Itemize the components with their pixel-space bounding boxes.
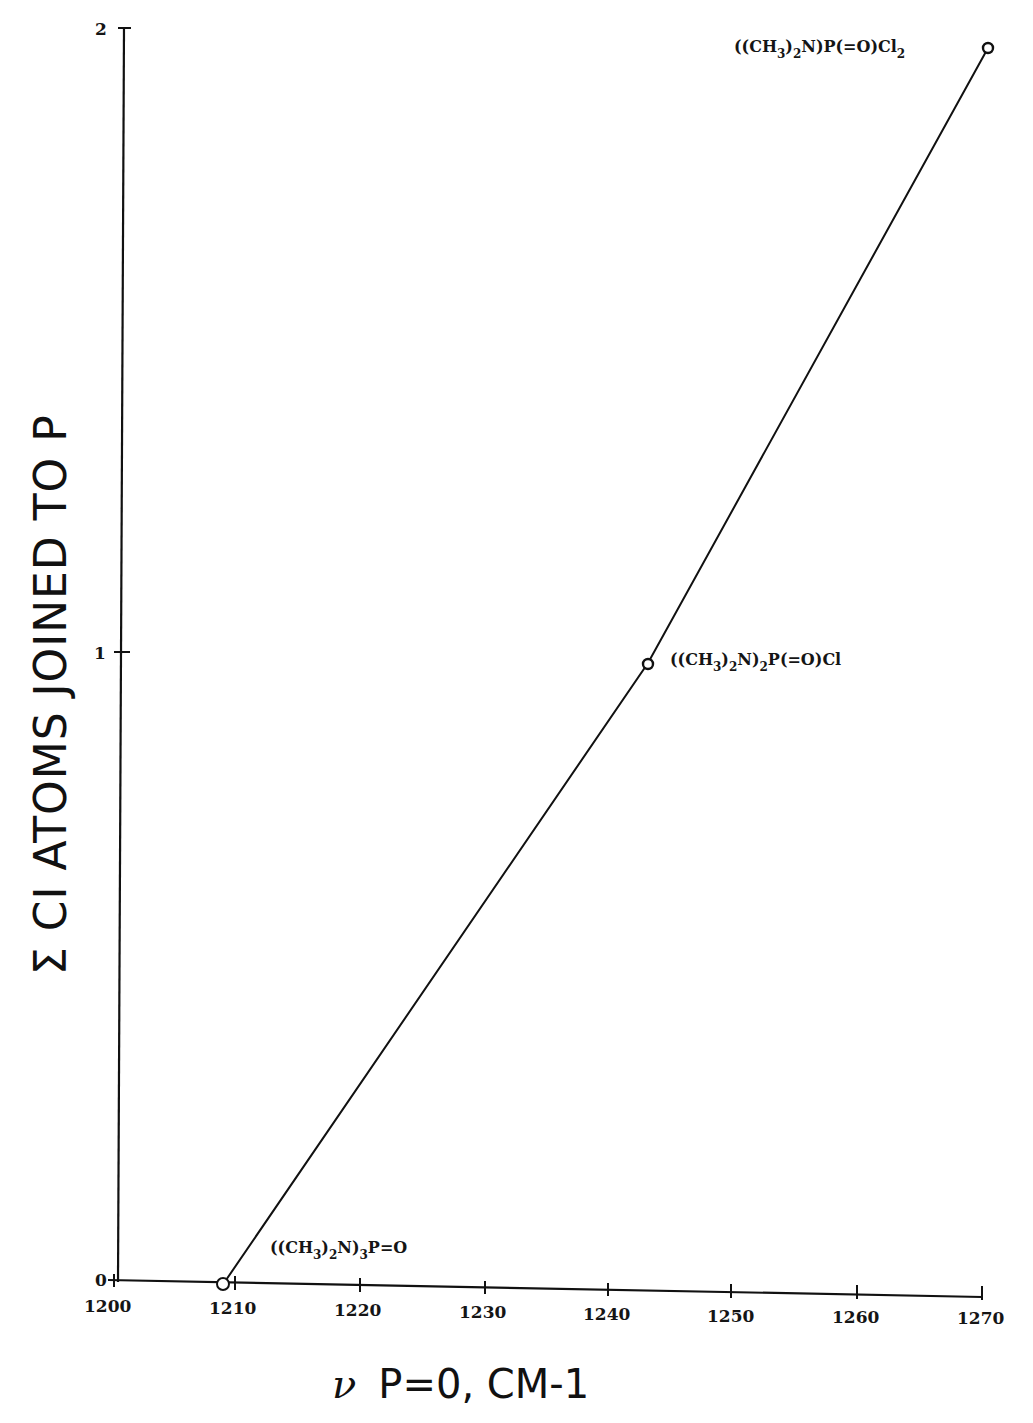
point-label-1: ((CH3)2N)2P(=O)Cl <box>670 650 841 674</box>
y-tick-label-2: 2 <box>95 19 107 39</box>
y-tick-label-0: 0 <box>95 1270 107 1290</box>
x-tick-label-1250: 1250 <box>707 1306 754 1326</box>
x-tick-label-1270: 1270 <box>957 1308 1004 1328</box>
y-tick-label-1: 1 <box>94 643 106 663</box>
chart-canvas: 2 1 0 1200 1210 1220 1230 1240 1250 1260… <box>0 0 1033 1423</box>
x-axis-line <box>108 1280 982 1297</box>
x-tick-label-1230: 1230 <box>459 1302 506 1322</box>
point-label-2: ((CH3)2N)P(=O)Cl2 <box>734 37 905 61</box>
data-point-marker-0 <box>217 1278 229 1290</box>
y-axis-ticks: 2 1 0 <box>94 19 131 1290</box>
point-label-0: ((CH3)2N)3P=O <box>270 1238 407 1262</box>
x-tick-label-1200: 1200 <box>84 1296 131 1316</box>
data-point-marker-1 <box>643 659 653 669</box>
x-axis-ticks <box>114 1274 982 1300</box>
y-axis-label: Σ CI ATOMS JOINED TO P <box>25 414 76 975</box>
x-tick-label-1210: 1210 <box>209 1298 256 1318</box>
data-line <box>224 48 988 1283</box>
x-tick-label-1260: 1260 <box>832 1307 879 1327</box>
data-point-marker-2 <box>983 43 993 53</box>
y-axis-line <box>118 28 124 1282</box>
x-tick-label-1240: 1240 <box>583 1304 630 1324</box>
x-tick-label-1220: 1220 <box>334 1300 381 1320</box>
x-axis-label: νP=0, CM-1 <box>332 1361 589 1407</box>
x-axis-tick-labels: 1200 1210 1220 1230 1240 1250 1260 1270 <box>84 1296 1004 1328</box>
